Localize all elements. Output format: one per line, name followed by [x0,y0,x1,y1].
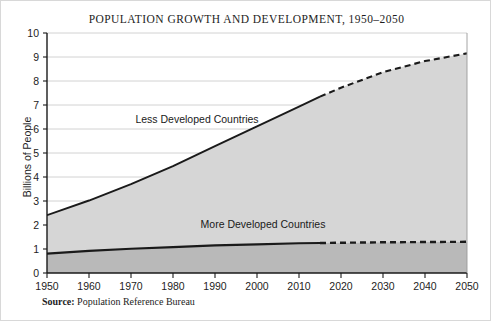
source-text: Population Reference Bureau [77,296,195,307]
y-axis-tick-labels: 012345678910 [27,27,39,279]
y-tick-label: 9 [33,51,39,63]
line-more-developed-projected [320,242,467,243]
chart-figure: POPULATION GROWTH AND DEVELOPMENT, 1950–… [0,0,491,321]
series-label-less-developed: Less Developed Countries [135,113,258,125]
y-tick-label: 1 [33,243,39,255]
x-tick-label: 2020 [329,280,353,292]
y-tick-label: 8 [33,75,39,87]
source-note: Source: Population Reference Bureau [42,296,195,307]
y-tick-label: 4 [33,171,39,183]
x-tick-label: 2030 [371,280,395,292]
x-tick-label: 1990 [203,280,227,292]
x-tick-label: 2050 [455,280,479,292]
x-tick-label: 2040 [413,280,437,292]
x-tick-label: 1970 [119,280,143,292]
x-tick-label: 2010 [287,280,311,292]
source-label: Source: [42,296,75,307]
x-tick-label: 2000 [245,280,269,292]
series-label-more-developed: More Developed Countries [201,218,326,230]
x-tick-label: 1960 [77,280,101,292]
y-tick-label: 0 [33,267,39,279]
y-tick-label: 5 [33,147,39,159]
x-tick-label: 1950 [35,280,59,292]
y-tick-label: 7 [33,99,39,111]
x-tick-label: 1980 [161,280,185,292]
y-tick-label: 3 [33,195,39,207]
y-tick-label: 10 [27,27,39,39]
x-axis-ticks [47,273,467,278]
x-axis-tick-labels: 1950196019701980199020002010202020302040… [35,280,479,292]
y-tick-label: 6 [33,123,39,135]
chart-plot: 012345678910 195019601970198019902000201… [1,1,491,321]
y-tick-label: 2 [33,219,39,231]
